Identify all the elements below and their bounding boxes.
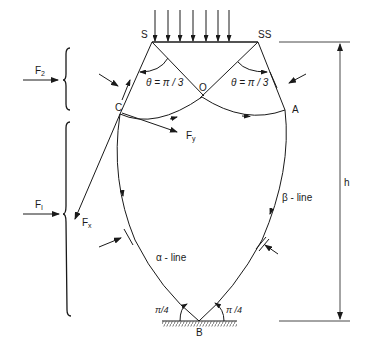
shear-mark-right-lower (256, 237, 266, 249)
label-force-F1-sub: I (41, 204, 43, 211)
force-Fy-vector (122, 113, 177, 132)
force-Fx-vector (75, 114, 120, 219)
label-point-B: B (196, 328, 203, 338)
shear-mark-right-upper (270, 72, 277, 88)
brace-upper (63, 48, 70, 110)
label-force-F2-sub: 2 (41, 70, 45, 77)
angle-arc-bottom-right (215, 303, 224, 321)
beta-direction-arrow (270, 208, 272, 214)
label-theta-right: θ = π / 3 (231, 78, 268, 88)
label-point-O: O (199, 83, 207, 93)
pressure-arrow-left-lower (99, 238, 121, 247)
label-force-Fy: Fy (186, 131, 196, 144)
alpha-direction-arrow (122, 190, 123, 196)
brace-lower (63, 122, 71, 316)
shear-mark-right-lower-2 (259, 239, 269, 251)
slip-line-diagram: S SS O C A B θ = π / 3 θ = π / 3 π/4 π /… (0, 0, 366, 357)
alpha-line (117, 114, 199, 321)
label-angle-bottom-left: π/4 (155, 305, 169, 315)
beta-line (199, 110, 286, 321)
label-force-Fx: Fx (82, 218, 92, 231)
label-alpha-line: α - line (156, 253, 186, 263)
slip-arc-O-A (202, 97, 285, 115)
label-force-F1: FI (35, 200, 43, 213)
label-beta-line: β - line (282, 193, 312, 203)
arc-arrow-left (170, 117, 177, 119)
slip-arc-C-O (120, 97, 202, 119)
label-force-Fx-sub: x (88, 222, 92, 229)
label-point-SS: SS (258, 30, 271, 40)
label-dimension-h: h (344, 178, 350, 188)
diagram-canvas (0, 0, 366, 357)
pressure-arrow-left-upper (99, 74, 118, 86)
label-angle-bottom-right: π /4 (226, 305, 242, 315)
label-point-C: C (115, 103, 122, 113)
pressure-arrow-right-lower (265, 245, 278, 254)
label-point-S: S (141, 30, 148, 40)
label-theta-left: θ = π / 3 (146, 78, 183, 88)
pressure-arrow-right-upper (289, 74, 306, 83)
arc-arrow-right (242, 116, 250, 117)
label-point-A: A (292, 105, 299, 115)
label-force-F2: F2 (35, 66, 45, 79)
angle-arc-bottom-left (180, 304, 187, 321)
theta-arc-right (238, 62, 267, 72)
label-force-Fy-sub: y (192, 135, 196, 142)
ground-hatching (162, 322, 237, 327)
distributed-load-arrows (155, 10, 229, 41)
shear-mark-left-upper (122, 80, 130, 100)
